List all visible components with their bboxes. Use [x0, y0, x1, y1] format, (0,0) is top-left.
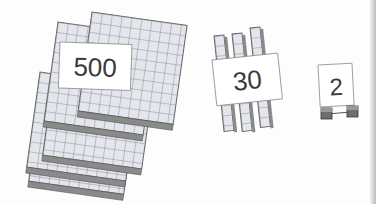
- tens-label: 30: [231, 64, 263, 97]
- hundreds-flats-group: 500: [26, 12, 187, 200]
- base-ten-illustration: 500 30 2: [0, 0, 376, 204]
- hundreds-card: 500: [58, 42, 132, 90]
- tens-card: 30: [212, 53, 282, 106]
- unit-cube-1: [321, 108, 332, 119]
- unit-cube-2: [347, 106, 358, 117]
- ones-group: 2: [318, 63, 358, 119]
- tens-rods-group: 30: [212, 27, 282, 134]
- ones-label: 2: [329, 73, 344, 101]
- ones-card: 2: [318, 63, 354, 107]
- hundreds-label: 500: [73, 51, 117, 82]
